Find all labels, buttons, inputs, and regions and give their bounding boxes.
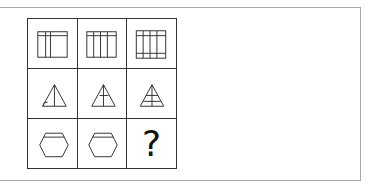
hexagon-icon [28, 119, 77, 168]
question-mark: ? [127, 119, 176, 168]
triangle-icon [78, 69, 126, 118]
cell-r3-c2 [78, 119, 127, 168]
cell-r3-c1 [28, 119, 78, 168]
cell-r1-c3 [127, 19, 176, 69]
puzzle-grid: ? [27, 18, 177, 169]
triangle-icon [28, 69, 77, 118]
cell-r1-c2 [78, 19, 127, 69]
triangle-icon [127, 69, 176, 118]
square-grid-icon [78, 19, 126, 68]
cell-r3-c3: ? [127, 119, 176, 168]
square-grid-icon [28, 19, 77, 68]
cell-r2-c2 [78, 69, 127, 119]
cell-r1-c1 [28, 19, 78, 69]
hexagon-icon [78, 119, 126, 168]
cell-r2-c3 [127, 69, 176, 119]
cell-r2-c1 [28, 69, 78, 119]
square-grid-icon [127, 19, 176, 68]
